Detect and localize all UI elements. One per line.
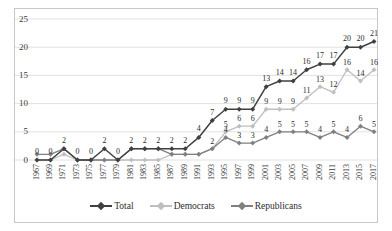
legend-swatch-total-icon <box>90 202 112 210</box>
series-marker-republicans-2001 <box>264 135 269 140</box>
data-label-democrats-2001: 9 <box>260 98 272 106</box>
data-label-democrats-2017: 16 <box>368 59 380 67</box>
x-tick-label-2015: 2015 <box>356 164 364 180</box>
series-marker-total-2003 <box>277 79 282 84</box>
x-tick-label-1999: 1999 <box>248 164 256 180</box>
series-marker-total-1967 <box>35 158 40 163</box>
x-tick-label-1981: 1981 <box>127 164 135 180</box>
data-label-democrats-2015: 14 <box>355 70 367 78</box>
data-label-total-1967: 0 <box>31 148 43 156</box>
y-tick-label-20: 20 <box>8 43 28 52</box>
legend-item-democrats[interactable]: Democrats <box>150 201 215 211</box>
x-tick-label-2013: 2013 <box>343 164 351 180</box>
y-tick-label-10: 10 <box>8 99 28 108</box>
legend-label: Total <box>114 201 133 211</box>
data-label-total-1999: 9 <box>247 97 259 105</box>
series-marker-democrats-1971 <box>61 152 66 157</box>
legend-item-total[interactable]: Total <box>90 201 133 211</box>
series-marker-republicans-1991 <box>196 152 201 157</box>
data-label-total-2001: 13 <box>260 75 272 83</box>
series-marker-total-1983 <box>142 146 147 151</box>
data-label-democrats-1997: 6 <box>233 115 245 123</box>
data-label-republicans-1997: 3 <box>233 132 245 140</box>
data-label-total-1979: 0 <box>112 148 124 156</box>
legend-swatch-democrats-icon <box>150 202 172 210</box>
x-tick-label-1967: 1967 <box>33 164 41 180</box>
x-tick-label-1973: 1973 <box>73 164 81 180</box>
x-tick-label-1979: 1979 <box>113 164 121 180</box>
series-marker-democrats-1983 <box>142 158 147 163</box>
data-label-total-2009: 17 <box>314 52 326 60</box>
x-tick-label-2003: 2003 <box>275 164 283 180</box>
y-tick-label-5: 5 <box>8 127 28 136</box>
x-tick-label-1969: 1969 <box>46 164 54 180</box>
data-label-total-1995: 9 <box>220 97 232 105</box>
data-label-democrats-2009: 13 <box>314 76 326 84</box>
x-tick-label-1995: 1995 <box>221 164 229 180</box>
x-tick-label-1989: 1989 <box>181 164 189 180</box>
series-marker-total-2015 <box>358 45 363 50</box>
x-tick-label-1997: 1997 <box>235 164 243 180</box>
data-label-total-2005: 14 <box>287 69 299 77</box>
series-marker-republicans-1987 <box>169 152 174 157</box>
legend-label: Republicans <box>255 201 302 211</box>
series-marker-republicans-2009 <box>318 135 323 140</box>
series-marker-democrats-1997 <box>237 124 242 129</box>
data-label-total-1989: 2 <box>179 137 191 145</box>
series-marker-total-1987 <box>169 146 174 151</box>
series-marker-republicans-1989 <box>183 152 188 157</box>
x-tick-label-1993: 1993 <box>208 164 216 180</box>
data-label-republicans-2013: 4 <box>341 126 353 134</box>
data-label-republicans-2007: 5 <box>301 121 313 129</box>
data-label-democrats-1999: 6 <box>247 115 259 123</box>
data-label-total-1981: 2 <box>125 137 137 145</box>
chart-legend: TotalDemocratsRepublicans <box>14 196 378 216</box>
data-label-republicans-1999: 3 <box>247 132 259 140</box>
data-label-total-2007: 16 <box>301 58 313 66</box>
data-label-total-1973: 0 <box>71 148 83 156</box>
data-label-republicans-1995: 4 <box>220 126 232 134</box>
x-tick-label-2017: 2017 <box>370 164 378 180</box>
x-tick-label-2011: 2011 <box>329 164 337 180</box>
data-label-democrats-2003: 9 <box>274 98 286 106</box>
x-tick-label-2007: 2007 <box>302 164 310 180</box>
data-label-republicans-2015: 6 <box>355 115 367 123</box>
data-label-total-1977: 2 <box>98 137 110 145</box>
x-tick-label-2009: 2009 <box>316 164 324 180</box>
y-tick-label-15: 15 <box>8 71 28 80</box>
x-tick-label-1991: 1991 <box>194 164 202 180</box>
x-tick-label-1983: 1983 <box>140 164 148 180</box>
series-marker-republicans-1977 <box>102 158 107 163</box>
data-label-republicans-2005: 5 <box>287 121 299 129</box>
data-label-total-2017: 21 <box>368 30 380 38</box>
series-marker-democrats-1985 <box>156 158 161 163</box>
data-label-republicans-2009: 4 <box>314 126 326 134</box>
data-label-republicans-2011: 5 <box>328 121 340 129</box>
data-label-democrats-2011: 12 <box>328 81 340 89</box>
data-label-total-1971: 2 <box>58 137 70 145</box>
chart-container: 0510152025 19671969197119731975197719791… <box>0 0 392 231</box>
x-tick-label-1975: 1975 <box>86 164 94 180</box>
data-label-total-1975: 0 <box>85 148 97 156</box>
data-label-democrats-2005: 9 <box>287 98 299 106</box>
series-marker-republicans-2017 <box>372 129 377 134</box>
x-tick-label-1977: 1977 <box>100 164 108 180</box>
series-marker-republicans-1999 <box>250 141 255 146</box>
x-tick-label-2005: 2005 <box>289 164 297 180</box>
data-label-total-1991: 4 <box>193 125 205 133</box>
series-marker-republicans-2003 <box>277 129 282 134</box>
x-tick-label-1985: 1985 <box>154 164 162 180</box>
data-label-total-1993: 7 <box>206 109 218 117</box>
data-label-total-2015: 20 <box>355 35 367 43</box>
series-marker-republicans-1997 <box>237 141 242 146</box>
x-tick-label-2001: 2001 <box>262 164 270 180</box>
data-label-republicans-2003: 5 <box>274 121 286 129</box>
data-label-total-1997: 9 <box>233 97 245 105</box>
data-label-total-1969: 0 <box>44 148 56 156</box>
legend-item-republicans[interactable]: Republicans <box>231 201 302 211</box>
series-marker-republicans-2007 <box>304 129 309 134</box>
series-marker-democrats-2003 <box>277 107 282 112</box>
legend-swatch-republicans-icon <box>231 202 253 210</box>
legend-label: Democrats <box>174 201 215 211</box>
data-label-total-2003: 14 <box>274 69 286 77</box>
